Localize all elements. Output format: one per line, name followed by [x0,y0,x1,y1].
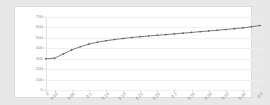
x-axis-tick [209,90,210,92]
x-axis-tick [89,90,90,92]
data-point-marker [96,41,98,43]
x-axis-tick [226,90,227,92]
series-line-group [46,17,260,90]
y-axis-tick-label: 0 [41,88,43,92]
data-point-marker [122,37,124,39]
x-axis-tick-label: 0.42 [220,92,230,102]
x-axis-tick [243,90,244,92]
x-axis-tick-label: 0.26 [151,92,161,102]
data-point-marker [88,43,90,45]
x-axis-tick [72,90,73,92]
x-axis-tick-label: 0.14 [100,92,110,102]
data-point-marker [216,29,218,31]
data-point-marker [156,34,158,36]
data-point-marker [199,31,201,33]
series-line [46,26,260,59]
x-axis-tick-label: 0.06 [66,92,76,102]
x-axis-tick [140,90,141,92]
data-point-marker [131,36,133,38]
y-axis: 7006005004003002001000 [15,7,46,99]
data-point-marker [148,35,150,37]
data-point-marker [190,31,192,33]
data-point-marker [208,30,210,32]
data-point-marker [182,32,184,34]
data-point-marker [113,38,115,40]
x-axis-tick [55,90,56,92]
x-axis-tick-label: 0.38 [203,92,213,102]
x-axis-tick [157,90,158,92]
x-axis-tick-label: 0.3 [168,92,178,102]
y-axis-tick-label: 700 [36,15,43,19]
y-axis-tick-label: 500 [36,36,43,40]
x-axis-tick [192,90,193,92]
y-axis-tick-label: 400 [36,46,43,50]
y-axis-tick-label: 100 [36,77,43,81]
x-axis-tick-label: 0.18 [117,92,127,102]
plot-area [46,17,260,90]
x-axis-tick-label: 0.22 [134,92,144,102]
data-point-marker [165,34,167,36]
x-axis-tick [123,90,124,92]
data-point-marker [79,46,81,48]
data-point-marker [242,27,244,29]
data-point-marker [259,24,261,26]
x-axis-tick [174,90,175,92]
x-axis-tick-label: 0.5 [254,92,264,102]
x-axis-tick-label: 0.1 [83,92,93,102]
y-axis-tick-label: 300 [36,57,43,61]
data-point-marker [173,33,175,35]
data-point-marker [225,28,227,30]
data-point-marker [233,28,235,30]
x-axis-tick-label: 0.02 [48,92,58,102]
data-point-marker [45,58,47,60]
data-point-marker [250,26,252,28]
x-axis-tick-label: 0.46 [237,92,247,102]
x-axis: 00.020.060.10.140.180.220.260.30.340.380… [46,90,260,105]
x-axis-tick [46,90,47,92]
y-axis-tick-label: 200 [36,67,43,71]
x-axis-tick [106,90,107,92]
data-point-marker [105,40,107,42]
chart-screenshot: 7006005004003002001000 00.020.060.10.140… [0,0,270,105]
x-axis-tick-label: 0.34 [185,92,195,102]
chart-canvas: 7006005004003002001000 00.020.060.10.140… [14,6,252,98]
data-point-marker [139,36,141,38]
y-axis-tick-label: 600 [36,25,43,29]
x-axis-tick [260,90,261,92]
